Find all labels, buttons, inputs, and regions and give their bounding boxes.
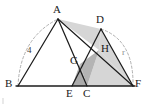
vertex-label-d: D (96, 14, 104, 25)
vertex-label-g: G (70, 55, 78, 66)
vertex-label-a: A (53, 4, 61, 15)
arc-length-label-left: 4 (27, 46, 32, 55)
arc-length-label-right: r (122, 48, 125, 57)
vertex-label-f: F (135, 78, 141, 89)
geometry-figure: A B C D E F G H 4 r (0, 0, 148, 104)
vertex-label-c: C (83, 88, 90, 99)
vertex-label-h: H (101, 43, 109, 54)
geometry-canvas (0, 0, 148, 104)
scan-artifact-mark (2, 98, 12, 104)
vertex-label-b: B (5, 78, 12, 89)
vertex-label-e: E (66, 88, 73, 99)
segment-a-b (18, 19, 58, 86)
